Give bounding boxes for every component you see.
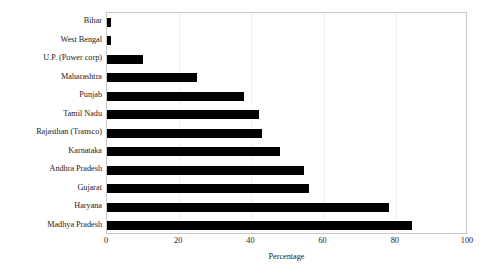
y-axis-label: Punjab <box>0 90 102 100</box>
bar-row <box>107 69 197 88</box>
x-tick-label: 0 <box>104 236 108 245</box>
x-tick-label: 100 <box>461 236 473 245</box>
x-tick-label: 40 <box>246 236 254 245</box>
bar-row <box>107 32 111 51</box>
bar-row <box>107 180 309 199</box>
y-axis-label: U.P. (Power corp) <box>0 53 102 63</box>
chart-container: BiharWest BengalU.P. (Power corp)Maharas… <box>0 0 492 275</box>
y-axis-label: Tamil Nadu <box>0 109 102 119</box>
bar <box>107 166 304 175</box>
bar-row <box>107 50 143 69</box>
y-axis-label: Maharashtra <box>0 72 102 82</box>
bar <box>107 129 262 138</box>
y-axis-label: Rajasthan (Transco) <box>0 127 102 137</box>
bar <box>107 92 244 101</box>
y-axis-label: West Bengal <box>0 35 102 45</box>
bar <box>107 18 111 27</box>
bars-layer <box>107 13 466 233</box>
bar-row <box>107 124 262 143</box>
y-axis-label: Andhra Pradesh <box>0 164 102 174</box>
x-tick-label: 20 <box>174 236 182 245</box>
bar <box>107 203 389 212</box>
x-axis-title: Percentage <box>106 252 467 261</box>
bar-row <box>107 161 304 180</box>
bar <box>107 73 197 82</box>
bar-row <box>107 106 259 125</box>
bar <box>107 55 143 64</box>
x-axis-tick-labels: 020406080100 <box>106 236 467 250</box>
bar-row <box>107 198 389 217</box>
y-axis-label: Haryana <box>0 201 102 211</box>
y-axis-label: Madhya Pradesh <box>0 220 102 230</box>
y-axis-label: Bihar <box>0 16 102 26</box>
bar-row <box>107 217 412 236</box>
bar <box>107 110 259 119</box>
y-axis-label: Karnataka <box>0 146 102 156</box>
x-tick-label: 60 <box>319 236 327 245</box>
bar <box>107 147 280 156</box>
y-axis-category-labels: BiharWest BengalU.P. (Power corp)Maharas… <box>0 12 102 234</box>
bar-row <box>107 87 244 106</box>
bar-row <box>107 13 111 32</box>
bar-row <box>107 143 280 162</box>
bar <box>107 221 412 230</box>
plot-area <box>106 12 467 234</box>
x-tick-label: 80 <box>391 236 399 245</box>
bar <box>107 36 111 45</box>
y-axis-label: Gujarat <box>0 183 102 193</box>
bar <box>107 184 309 193</box>
